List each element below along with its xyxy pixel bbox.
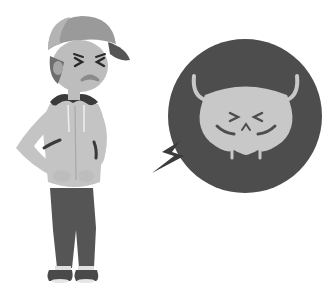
man-figure: [16, 16, 130, 283]
pain-bubble: [152, 39, 322, 193]
bladder-icon: [200, 87, 293, 155]
illustration-canvas: Man with bladder pain illustration: [0, 0, 333, 303]
illustration: [0, 0, 333, 303]
